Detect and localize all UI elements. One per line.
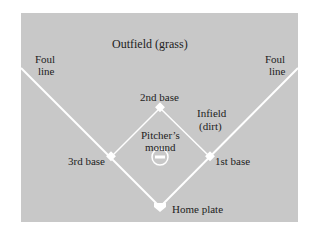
foul-line-left-label-1: Foul — [35, 53, 55, 65]
second-base-label: 2nd base — [140, 91, 179, 103]
pitchers-rubber — [155, 156, 165, 159]
baseball-field-diagram — [0, 0, 315, 235]
home-plate-label: Home plate — [172, 203, 223, 215]
first-base-label: 1st base — [215, 155, 250, 167]
infield-label-2: (dirt) — [199, 120, 222, 132]
pitchers-mound-label-1: Pitcher’s — [141, 129, 180, 141]
foul-line-right-label-1: Foul — [265, 53, 285, 65]
foul-line-left-label-2: line — [38, 65, 55, 77]
foul-line-right-label-2: line — [269, 65, 286, 77]
outfield-label: Outfield (grass) — [112, 38, 188, 50]
infield-label-1: Infield — [197, 107, 226, 119]
pitchers-mound-label-2: mound — [145, 141, 176, 153]
third-base-label: 3rd base — [68, 155, 105, 167]
